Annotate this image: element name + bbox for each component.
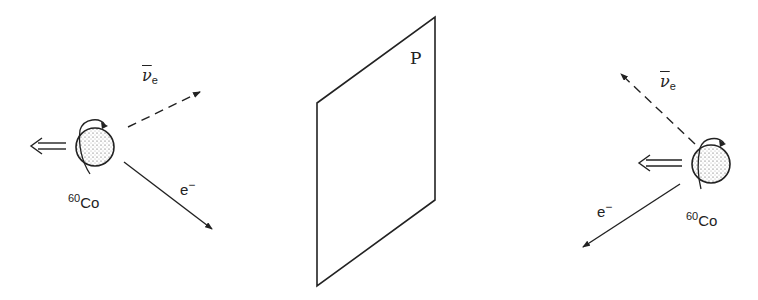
right-antineutrino-subscript: e <box>670 80 676 92</box>
right-antineutrino-arrow <box>621 74 695 144</box>
left-antineutrino-symbol: ν <box>142 66 152 85</box>
left-antineutrino-subscript: e <box>152 74 158 86</box>
left-element: Co <box>80 194 99 211</box>
right-electron-charge: − <box>605 200 612 214</box>
left-mass-number: 60 <box>68 192 80 204</box>
left-nucleus-label: 60Co <box>68 192 99 211</box>
left-spin-double-arrow-icon <box>31 138 66 154</box>
left-electron-arrow <box>124 162 212 229</box>
left-electron-charge: − <box>188 178 195 192</box>
left-scene <box>31 92 212 229</box>
right-electron-label: e− <box>597 200 612 220</box>
right-antineutrino-label: νe <box>660 72 676 92</box>
diagram-canvas <box>0 0 758 300</box>
right-nucleus-icon <box>692 139 730 189</box>
right-spin-double-arrow-icon <box>639 155 682 171</box>
right-mass-number: 60 <box>686 210 698 222</box>
left-electron-label: e− <box>180 178 195 198</box>
left-antineutrino-arrow <box>128 92 200 127</box>
right-nucleus-label: 60Co <box>686 210 717 229</box>
left-nucleus-icon <box>76 120 114 174</box>
right-element: Co <box>698 212 717 229</box>
right-antineutrino-symbol: ν <box>660 72 670 91</box>
mirror-plane-label: P <box>410 48 421 68</box>
left-antineutrino-label: νe <box>142 66 158 86</box>
